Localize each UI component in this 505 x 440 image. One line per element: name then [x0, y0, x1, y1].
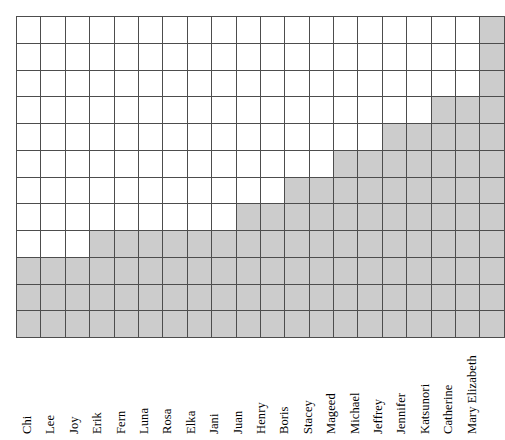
bar-segment-filled [212, 257, 236, 284]
x-axis-label-text: Juan [227, 326, 250, 436]
grid-row [17, 284, 505, 311]
grid-cell-empty [17, 177, 41, 204]
bar-segment-filled [431, 231, 455, 258]
x-axis-label-fern: Fern [110, 326, 133, 436]
grid-cell-empty [456, 43, 480, 70]
grid-cell-empty [41, 204, 65, 231]
bar-segment-filled [334, 257, 358, 284]
grid-table [16, 16, 505, 338]
grid-cell-empty [236, 124, 260, 151]
bar-segment-filled [382, 257, 406, 284]
grid-cell-empty [309, 43, 333, 70]
grid-cell-empty [90, 70, 114, 97]
grid-cell-empty [212, 124, 236, 151]
grid-cell-empty [212, 17, 236, 44]
x-axis-label-luna: Luna [133, 326, 156, 436]
grid-row [17, 70, 505, 97]
bar-segment-filled [480, 97, 504, 124]
bar-segment-filled [90, 257, 114, 284]
grid-cell-empty [138, 17, 162, 44]
grid-cell-empty [90, 177, 114, 204]
label-value: Luna [138, 408, 151, 436]
bar-segment-filled [138, 284, 162, 311]
grid-cell-empty [138, 70, 162, 97]
x-axis-label-stacey: Stacey [297, 326, 320, 436]
grid-cell-empty [212, 43, 236, 70]
x-axis-label-group: ChiLeeJoyErikFernLunaRosaElkaJaniJuanHen… [16, 326, 484, 436]
grid-cell-empty [382, 70, 406, 97]
grid-cell-empty [309, 17, 333, 44]
x-axis-label-jani: Jani [203, 326, 226, 436]
label-value: Erik [92, 412, 105, 436]
bar-segment-filled [285, 257, 309, 284]
grid-cell-empty [407, 70, 431, 97]
x-axis-label-jennifer: Jennifer [390, 326, 413, 436]
label-value: Katsunori [419, 384, 432, 436]
grid-cell-empty [65, 124, 89, 151]
bar-segment-filled [260, 257, 284, 284]
grid-cell-empty [163, 124, 187, 151]
x-axis-label-catherine: Catherine [437, 326, 460, 436]
grid-body [17, 17, 505, 338]
grid-cell-empty [90, 97, 114, 124]
grid-row [17, 231, 505, 258]
grid-row [17, 124, 505, 151]
bar-segment-filled [456, 204, 480, 231]
x-axis-label-juan: Juan [227, 326, 250, 436]
x-axis-label-text: Boris [273, 326, 296, 436]
bar-segment-filled [90, 231, 114, 258]
grid-row [17, 17, 505, 44]
grid-cell-empty [309, 150, 333, 177]
grid-cell-empty [138, 177, 162, 204]
grid-cell-empty [163, 204, 187, 231]
grid-cell-empty [17, 150, 41, 177]
grid-cell-empty [163, 17, 187, 44]
grid-cell-empty [90, 150, 114, 177]
label-value: Jeffrey [372, 399, 385, 436]
bar-segment-filled [456, 231, 480, 258]
grid-cell-empty [187, 177, 211, 204]
grid-cell-empty [212, 150, 236, 177]
grid-cell-empty [41, 231, 65, 258]
bar-segment-filled [382, 284, 406, 311]
grid-cell-empty [334, 97, 358, 124]
x-axis-label-mary-elizabeth: Mary Elizabeth [461, 326, 484, 436]
grid-cell-empty [309, 97, 333, 124]
grid-cell-empty [114, 204, 138, 231]
grid-cell-empty [260, 124, 284, 151]
bar-segment-filled [456, 124, 480, 151]
grid-cell-empty [17, 231, 41, 258]
bar-segment-filled [382, 204, 406, 231]
grid-cell-empty [382, 17, 406, 44]
grid-cell-empty [260, 97, 284, 124]
grid-cell-empty [41, 97, 65, 124]
grid-cell-empty [236, 43, 260, 70]
grid-cell-empty [41, 43, 65, 70]
grid-cell-empty [41, 177, 65, 204]
bar-segment-filled [480, 150, 504, 177]
x-axis-label-lee: Lee [39, 326, 62, 436]
bar-segment-filled [41, 284, 65, 311]
bar-segment-filled [309, 257, 333, 284]
grid-cell-empty [65, 70, 89, 97]
grid-cell-empty [456, 70, 480, 97]
grid-cell-empty [65, 177, 89, 204]
grid-cell-empty [187, 43, 211, 70]
grid-cell-empty [212, 204, 236, 231]
bar-segment-filled [431, 177, 455, 204]
bar-segment-filled [285, 177, 309, 204]
x-axis-label-text: Katsunori [414, 326, 437, 436]
grid-cell-empty [65, 17, 89, 44]
grid-cell-empty [236, 150, 260, 177]
grid-cell-empty [114, 70, 138, 97]
grid-cell-empty [65, 204, 89, 231]
grid-cell-empty [41, 17, 65, 44]
bar-segment-filled [382, 231, 406, 258]
bar-segment-filled [236, 204, 260, 231]
x-axis-label-text: Lee [39, 326, 62, 436]
x-axis-label-text: Rosa [156, 326, 179, 436]
bar-segment-filled [65, 284, 89, 311]
bar-segment-filled [431, 97, 455, 124]
bar-segment-filled [480, 17, 504, 44]
bar-segment-filled [236, 231, 260, 258]
